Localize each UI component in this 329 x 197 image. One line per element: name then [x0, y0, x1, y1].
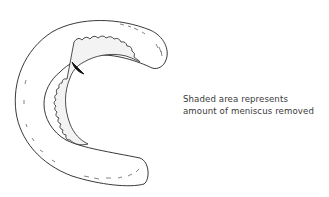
caption-line-1: Shaded area represents	[183, 93, 314, 105]
caption-line-2: amount of meniscus removed	[183, 105, 314, 117]
diagram-caption: Shaded area represents amount of meniscu…	[183, 93, 314, 117]
